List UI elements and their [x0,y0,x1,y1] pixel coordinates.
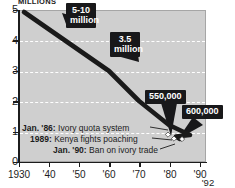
x-tick-1970 [139,162,140,167]
event-row-1986: Jan. '86: Ivory quota system [22,124,129,133]
callout-600000: 600,000 [182,105,223,119]
x-tick-1950 [79,162,80,167]
y-axis-line [18,10,20,163]
callout-3-5-million-line1: 3.5 [114,34,136,44]
x-tick-label-1970: '70 [127,169,151,180]
callout-5-10-million: 5-10 million [66,3,96,28]
event-date-1990: Jan. '90: [53,145,87,155]
event-text-1990: Ban on ivory trade [89,145,158,155]
x-tick-label-1960: '60 [97,169,121,180]
callout-5-10-million-line1: 5-10 [70,5,92,15]
y-tick-label-0: 0 [4,156,18,167]
callout-600000-text: 600,000 [186,107,219,116]
y-tick-label-2: 2 [4,96,18,107]
callout-550000: 550,000 [145,90,186,104]
x-tick-1930 [19,162,20,167]
event-date-1989: 1989: [30,134,52,144]
callout-3-5-million: 3.5 million [110,32,140,57]
event-date-1986: Jan. '86: [22,123,56,133]
x-tick-1980 [170,162,171,167]
gridline-3 [20,72,205,73]
x-tick-1960 [109,162,110,167]
x-tick-label-1940: '40 [37,169,61,180]
y-tick-label-4: 4 [4,35,18,46]
x-tick-label-1992: '92 [196,177,220,188]
callout-5-10-million-line2: million [70,15,92,25]
y-tick-label-3: 3 [4,65,18,76]
x-tick-label-1930: 1930 [4,169,34,180]
x-tick-1940 [49,162,50,167]
callout-550000-text: 550,000 [149,92,182,101]
event-text-1986: Ivory quota system [58,123,129,133]
x-axis-line [18,162,207,164]
y-axis-title: MILLIONS [18,0,56,6]
y-tick-label-5: 5 [4,4,18,15]
callout-3-5-million-line2: million [114,44,136,54]
x-tick-label-1950: '50 [67,169,91,180]
x-tick-label-1980: '80 [158,169,182,180]
event-row-1990: Jan. '90: Ban on ivory trade [53,146,158,155]
event-text-1989: Kenya fights poaching [54,134,138,144]
event-row-1989: 1989: Kenya fights poaching [30,135,138,144]
x-tick-1990 [200,162,201,167]
elephant-population-chart: MILLIONS 5 4 3 2 1 0 1930 '40 '50 '60 '7… [0,0,235,188]
y-tick-label-1: 1 [4,126,18,137]
